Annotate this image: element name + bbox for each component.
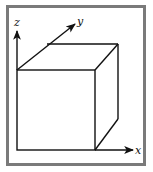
cube [17, 44, 118, 150]
x-axis-label: x [135, 144, 142, 157]
z-axis-label: z [13, 16, 20, 29]
axes [17, 24, 133, 150]
cube-bottom-right-edge [95, 119, 118, 150]
y-axis-label: y [76, 15, 84, 28]
cube-diagram: z y x [0, 0, 153, 172]
cube-top-right-edge [95, 44, 118, 70]
y-axis [17, 24, 75, 70]
cube-front-face [17, 70, 95, 150]
figure-frame [8, 7, 145, 165]
